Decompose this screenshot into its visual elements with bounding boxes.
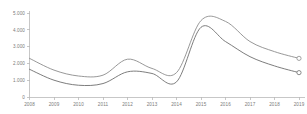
series-line-upper-series — [30, 16, 300, 77]
y-tick-label: 2.000 — [13, 61, 25, 66]
y-tick-label: 5.000 — [13, 11, 25, 16]
x-tick-label: 2012 — [122, 102, 133, 107]
y-tick-label: 3.000 — [13, 44, 25, 49]
x-tick-label: 2017 — [245, 102, 256, 107]
y-axis-ticks: 01.0002.0003.0004.0005.000 — [13, 11, 30, 100]
x-tick-label: 2011 — [98, 102, 109, 107]
data-series-group — [30, 16, 300, 85]
x-tick-label: 2015 — [196, 102, 207, 107]
x-axis-ticks: 2008200920102011201220132014201520162017… — [24, 97, 304, 107]
line-chart: 01.0002.0003.0004.0005.000 2008200920102… — [0, 0, 307, 114]
y-tick-label: 1.000 — [13, 78, 25, 83]
y-tick-label: 0 — [22, 95, 25, 100]
x-tick-label: 2014 — [171, 102, 182, 107]
series-line-lower-series — [30, 26, 300, 86]
x-tick-label: 2018 — [269, 102, 280, 107]
x-tick-label: 2008 — [24, 102, 35, 107]
x-tick-label: 2016 — [220, 102, 231, 107]
endpoint-markers-group — [297, 56, 301, 74]
x-tick-label: 2013 — [147, 102, 158, 107]
x-tick-label: 2019 — [294, 102, 305, 107]
endpoint-marker-lower-series — [297, 71, 301, 75]
endpoint-marker-upper-series — [297, 56, 301, 60]
y-tick-label: 4.000 — [13, 28, 25, 33]
x-tick-label: 2010 — [73, 102, 84, 107]
x-tick-label: 2009 — [49, 102, 60, 107]
chart-plot-area: 01.0002.0003.0004.0005.000 2008200920102… — [0, 0, 307, 114]
